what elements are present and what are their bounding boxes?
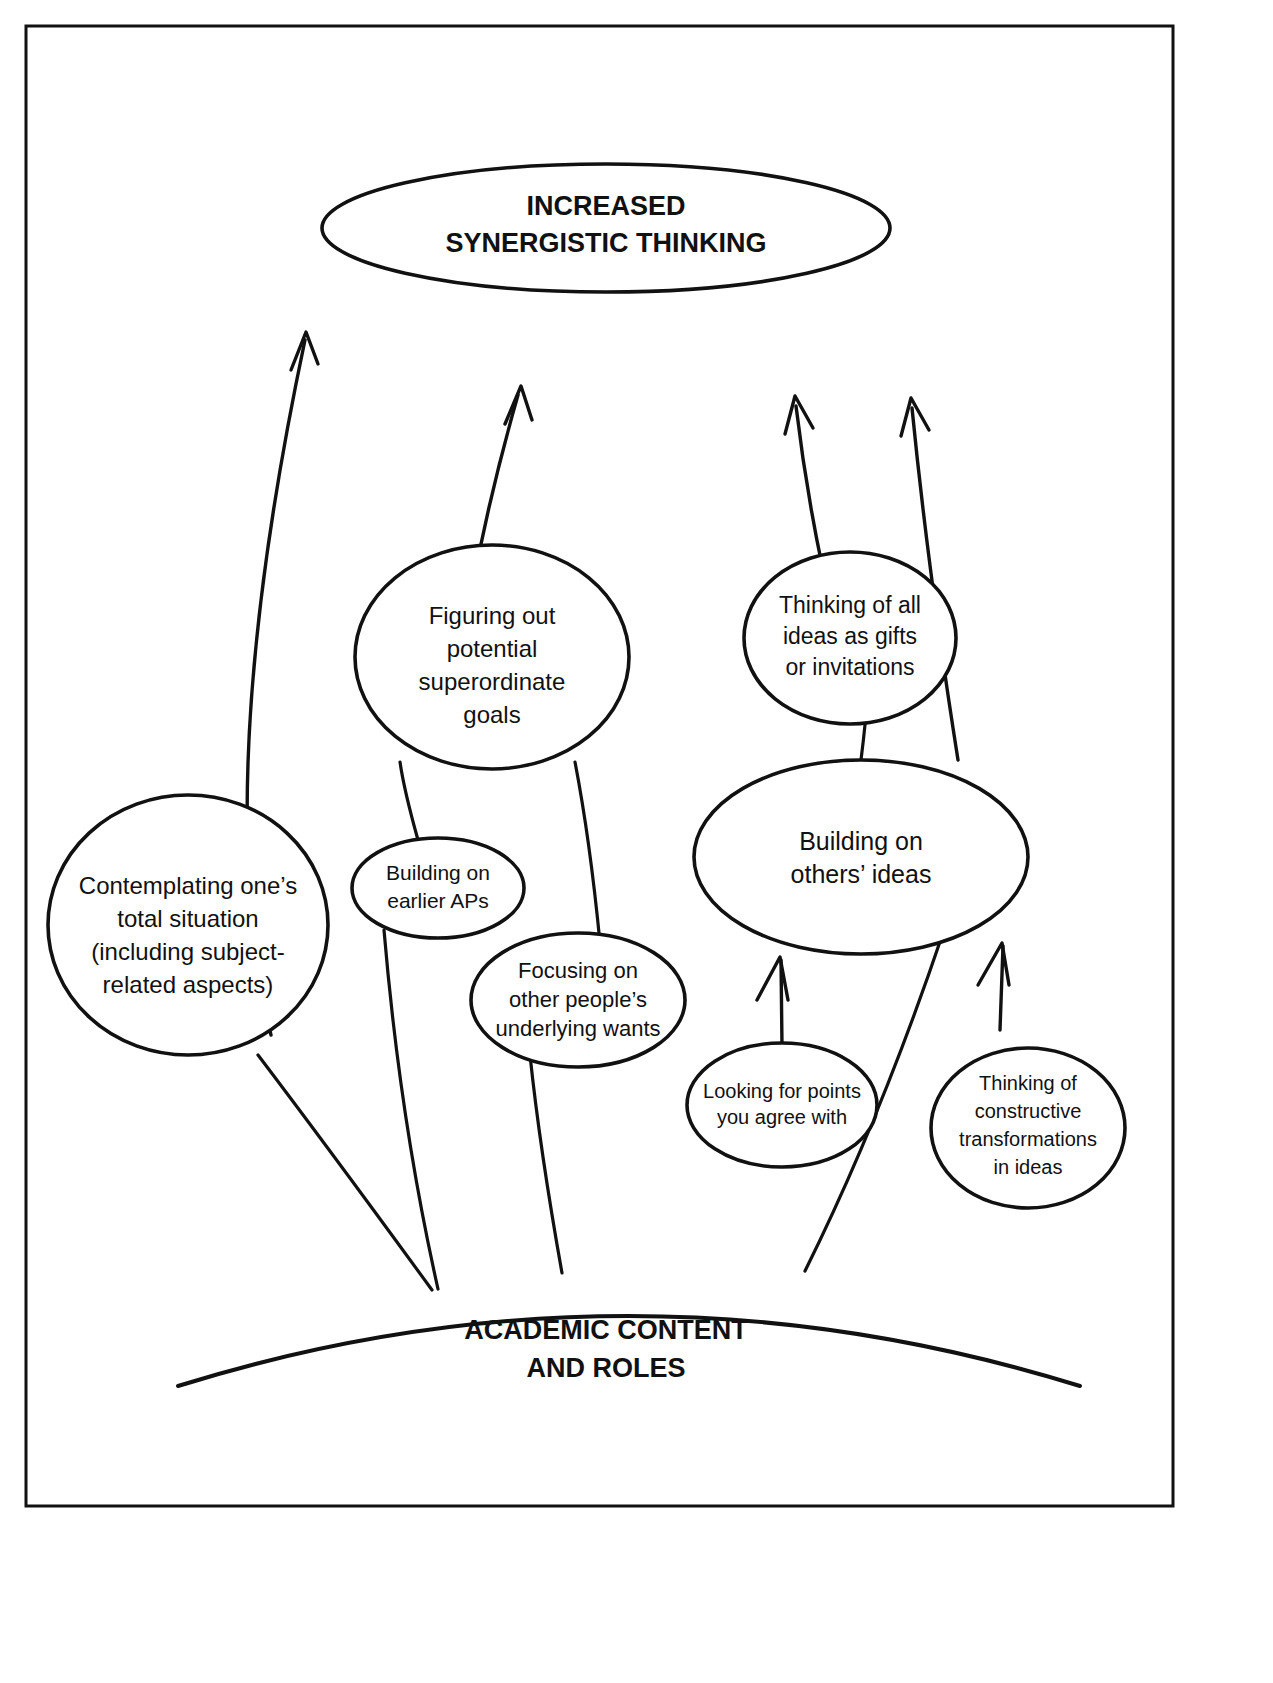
label-agree-line-1: Looking for points	[703, 1080, 861, 1102]
link-base-to-contemplating	[258, 1055, 432, 1290]
label-superordinate-line-1: Figuring out	[429, 602, 556, 629]
label-transformations-line-3: transformations	[959, 1128, 1097, 1150]
label-contemplating-line-3: (including subject-	[91, 938, 284, 965]
label-contemplating-line-4: related aspects)	[103, 971, 274, 998]
label-superordinate-line-2: potential	[447, 635, 538, 662]
label-agree-line-2: you agree with	[717, 1106, 847, 1128]
label-transformations-line-4: in ideas	[994, 1156, 1063, 1178]
node-looking-for-points-you-agree-with[interactable]	[687, 1043, 877, 1167]
label-superordinate-line-3: superordinate	[419, 668, 566, 695]
link-focusing-wants-to-superordinate	[575, 762, 600, 943]
label-earlier-aps-line-1: Building on	[386, 861, 490, 884]
label-goal-line-2: SYNERGISTIC THINKING	[445, 228, 766, 258]
label-focusing-line-2: other people’s	[509, 987, 647, 1012]
label-building-others-line-1: Building on	[799, 827, 923, 855]
link-earlier-aps-to-superordinate	[400, 762, 418, 840]
arrow-head-agree	[757, 957, 788, 1000]
arrow-head-left	[291, 332, 318, 370]
node-building-on-others-ideas[interactable]	[694, 760, 1028, 954]
label-gifts-line-1: Thinking of all	[779, 592, 921, 618]
label-contemplating-line-1: Contemplating one’s	[79, 872, 297, 899]
label-focusing-line-3: underlying wants	[495, 1016, 660, 1041]
label-contemplating-line-2: total situation	[117, 905, 258, 932]
label-transformations-line-2: constructive	[975, 1100, 1082, 1122]
arrow-gifts-to-goal	[796, 406, 823, 570]
diagram-root: INCREASED SYNERGISTIC THINKING Contempla…	[0, 0, 1273, 1683]
arrow-head-transformations	[978, 943, 1009, 985]
label-superordinate-line-4: goals	[463, 701, 520, 728]
label-gifts-line-3: or invitations	[785, 654, 914, 680]
label-building-others-line-2: others’ ideas	[791, 860, 932, 888]
label-earlier-aps-line-2: earlier APs	[387, 889, 489, 912]
concept-map-canvas: INCREASED SYNERGISTIC THINKING Contempla…	[0, 0, 1273, 1683]
label-base-line-2: AND ROLES	[526, 1353, 685, 1383]
link-base-to-focusing-wants	[530, 1055, 562, 1273]
label-focusing-line-1: Focusing on	[518, 958, 638, 983]
arrow-head-superordinate	[505, 386, 532, 424]
label-transformations-line-1: Thinking of	[979, 1072, 1077, 1094]
arrow-transformations-to-building-others	[1000, 946, 1003, 1030]
label-gifts-line-2: ideas as gifts	[783, 623, 917, 649]
label-base-line-1: ACADEMIC CONTENT	[464, 1315, 748, 1345]
label-goal-line-1: INCREASED	[526, 191, 685, 221]
